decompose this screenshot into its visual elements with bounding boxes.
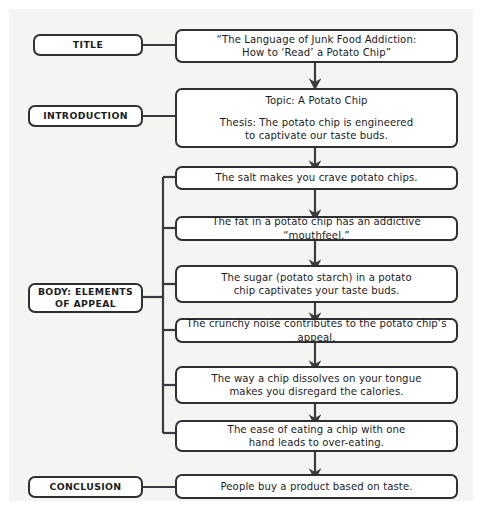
content-body-6-line-1: The ease of eating a chip with one bbox=[184, 423, 449, 436]
label-title-text: TITLE bbox=[35, 39, 141, 51]
label-introduction-text: INTRODUCTION bbox=[30, 110, 141, 122]
content-box-body-4[interactable]: The crunchy noise contributes to the pot… bbox=[175, 318, 458, 343]
content-body-2-line-1: The fat in a potato chip has an addictiv… bbox=[184, 215, 449, 242]
content-body-1-line-1: The salt makes you crave potato chips. bbox=[184, 171, 449, 184]
label-box-conclusion[interactable]: CONCLUSION bbox=[28, 476, 143, 498]
content-title-text: “The Language of Junk Food Addiction: Ho… bbox=[184, 33, 449, 60]
content-introduction-text: Topic: A Potato Chip Thesis: The potato … bbox=[184, 94, 449, 143]
content-box-body-3[interactable]: The sugar (potato starch) in a potato ch… bbox=[175, 265, 458, 303]
label-box-title[interactable]: TITLE bbox=[33, 34, 143, 56]
label-box-body[interactable]: BODY: ELEMENTS OF APPEAL bbox=[28, 283, 143, 313]
label-conclusion-text: CONCLUSION bbox=[30, 481, 141, 493]
content-body-3-line-1: The sugar (potato starch) in a potato bbox=[184, 271, 449, 284]
content-box-title[interactable]: “The Language of Junk Food Addiction: Ho… bbox=[175, 29, 458, 63]
content-intro-thesis-line-2: to captivate our taste buds. bbox=[184, 129, 449, 142]
content-intro-thesis-line-1: Thesis: The potato chip is engineered bbox=[184, 116, 449, 129]
content-body-6-text: The ease of eating a chip with one hand … bbox=[184, 423, 449, 450]
content-body-5-text: The way a chip dissolves on your tongue … bbox=[184, 372, 449, 399]
content-box-body-6[interactable]: The ease of eating a chip with one hand … bbox=[175, 420, 458, 452]
content-box-body-5[interactable]: The way a chip dissolves on your tongue … bbox=[175, 366, 458, 404]
content-body-5-line-1: The way a chip dissolves on your tongue bbox=[184, 372, 449, 385]
content-body-3-line-2: chip captivates your taste buds. bbox=[184, 284, 449, 297]
content-box-body-1[interactable]: The salt makes you crave potato chips. bbox=[175, 166, 458, 190]
content-box-conclusion[interactable]: People buy a product based on taste. bbox=[175, 474, 458, 499]
label-body-line-1: BODY: ELEMENTS bbox=[38, 286, 133, 297]
content-box-body-2[interactable]: The fat in a potato chip has an addictiv… bbox=[175, 216, 458, 241]
flowchart-canvas: TITLE INTRODUCTION BODY: ELEMENTS OF APP… bbox=[0, 0, 482, 511]
content-body-3-text: The sugar (potato starch) in a potato ch… bbox=[184, 271, 449, 298]
content-conclusion-line-1: People buy a product based on taste. bbox=[184, 480, 449, 493]
content-body-5-line-2: makes you disregard the calories. bbox=[184, 385, 449, 398]
content-body-4-line-1: The crunchy noise contributes to the pot… bbox=[184, 317, 449, 344]
content-intro-spacer bbox=[184, 107, 449, 116]
content-box-introduction[interactable]: Topic: A Potato Chip Thesis: The potato … bbox=[175, 88, 458, 148]
content-title-line-2: How to ‘Read’ a Potato Chip” bbox=[184, 46, 449, 59]
label-box-introduction[interactable]: INTRODUCTION bbox=[28, 105, 143, 127]
label-body-text: BODY: ELEMENTS OF APPEAL bbox=[30, 286, 141, 311]
content-intro-topic: Topic: A Potato Chip bbox=[184, 94, 449, 107]
content-title-line-1: “The Language of Junk Food Addiction: bbox=[184, 33, 449, 46]
content-body-6-line-2: hand leads to over-eating. bbox=[184, 436, 449, 449]
label-body-line-2: OF APPEAL bbox=[55, 298, 116, 309]
